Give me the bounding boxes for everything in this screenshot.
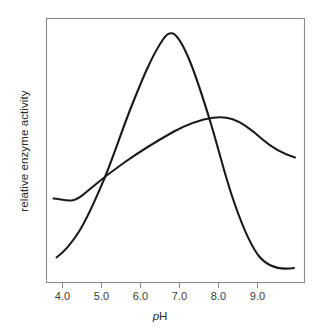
enzyme-activity-chart-figure: 4.0 5.0 6.0 7.0 8.0 9.0 pH relative enzy… bbox=[0, 0, 321, 334]
x-tick-label-5: 9.0 bbox=[250, 290, 265, 302]
x-axis-ticks bbox=[63, 283, 258, 288]
x-tick-label-4: 8.0 bbox=[211, 290, 226, 302]
x-tick-label-0: 4.0 bbox=[55, 290, 70, 302]
x-tick-label-2: 6.0 bbox=[133, 290, 148, 302]
x-axis-title: pH bbox=[152, 310, 168, 322]
x-axis-title-roman-part: H bbox=[159, 310, 167, 322]
x-axis-tick-labels: 4.0 5.0 6.0 7.0 8.0 9.0 bbox=[55, 290, 265, 302]
plot-frame bbox=[47, 19, 305, 283]
x-tick-label-1: 5.0 bbox=[94, 290, 109, 302]
x-tick-label-3: 7.0 bbox=[172, 290, 187, 302]
curve-sharp-peak-enzyme bbox=[57, 33, 295, 268]
chart-plot-area: 4.0 5.0 6.0 7.0 8.0 9.0 pH bbox=[0, 0, 321, 334]
curve-broad-peak-enzyme bbox=[54, 117, 296, 200]
